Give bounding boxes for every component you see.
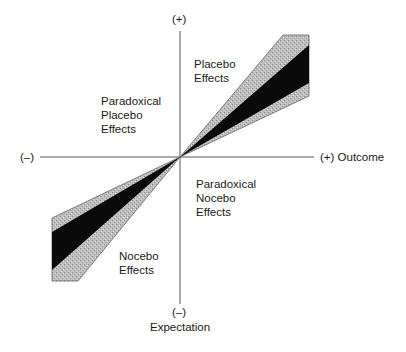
nocebo-wedge-outer [52,157,180,281]
region-paradoxical-placebo-effects: Paradoxical Placebo Effects [101,94,161,136]
x-axis-positive-label: (+) Outcome [320,150,384,164]
y-axis-title: Expectation [150,320,210,334]
y-axis-positive-label: (+) [172,12,186,26]
placebo-wedge-outer [180,35,309,157]
x-axis-negative-label: (–) [20,150,34,164]
y-axis-negative-label: (–) [172,305,186,319]
region-paradoxical-nocebo-effects: Paradoxical Nocebo Effects [196,177,256,219]
diagram-canvas [0,0,406,352]
region-placebo-effects: Placebo Effects [194,57,236,85]
region-nocebo-effects: Nocebo Effects [119,249,159,277]
